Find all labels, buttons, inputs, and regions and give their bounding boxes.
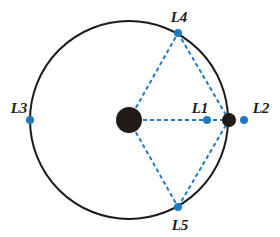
secondary-body: [222, 113, 236, 127]
label-l4: L4: [170, 9, 188, 25]
label-l1: L1: [191, 100, 209, 116]
point-l3: [26, 116, 34, 124]
lagrange-diagram: L1 L2 L3 L4 L5: [0, 0, 280, 237]
point-l1: [203, 116, 211, 124]
point-l2: [240, 116, 248, 124]
dashed-lines: [129, 33, 229, 207]
diagram-canvas: L1 L2 L3 L4 L5: [0, 0, 280, 237]
line-l5-secondary: [178, 120, 229, 207]
label-l2: L2: [252, 100, 270, 116]
point-l5: [174, 203, 182, 211]
label-l3: L3: [10, 100, 28, 116]
line-primary-l5: [129, 120, 178, 207]
label-l5: L5: [171, 217, 189, 233]
line-primary-l4: [129, 33, 178, 120]
primary-body: [116, 107, 142, 133]
point-l4: [174, 29, 182, 37]
